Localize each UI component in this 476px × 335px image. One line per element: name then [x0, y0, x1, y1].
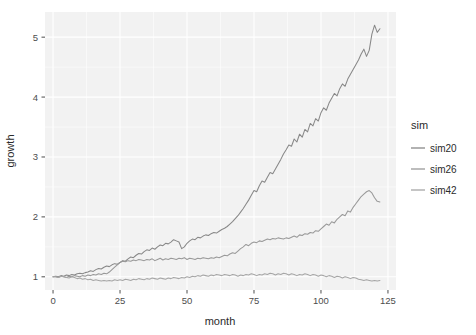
x-tick-label: 0 — [50, 295, 55, 306]
legend-label-sim26: sim26 — [430, 164, 457, 175]
legend-label-sim20: sim20 — [430, 143, 457, 154]
legend-title: sim — [411, 119, 428, 131]
x-tick-label: 75 — [249, 295, 260, 306]
y-tick-label: 5 — [33, 32, 38, 43]
x-tick-label: 25 — [115, 295, 126, 306]
chart-container: 0255075100125 12345 month growth sim sim… — [0, 0, 476, 335]
y-tick-label: 4 — [33, 92, 38, 103]
y-tick-label: 3 — [33, 151, 38, 162]
x-tick-label: 100 — [313, 295, 329, 306]
y-tick-label: 1 — [33, 271, 38, 282]
y-tick-label: 2 — [33, 211, 38, 222]
y-axis-title: growth — [4, 134, 16, 167]
x-tick-label: 50 — [182, 295, 193, 306]
x-tick-label: 125 — [380, 295, 396, 306]
legend-label-sim42: sim42 — [430, 185, 457, 196]
x-axis-title: month — [205, 315, 236, 327]
growth-vs-month-line-chart: 0255075100125 12345 month growth sim sim… — [0, 0, 476, 335]
